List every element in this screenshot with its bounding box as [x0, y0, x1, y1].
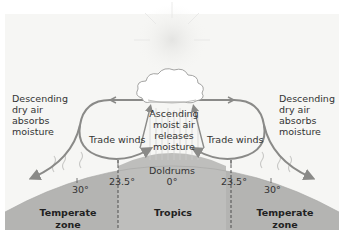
left-descending-line-4: moisture	[12, 126, 68, 137]
zone-temperate-right-line-2: zone	[255, 219, 315, 231]
right-descending-label: Descending dry air absorbs moisture	[279, 93, 335, 137]
latitude-right-23-5: 23.5°	[221, 176, 247, 187]
trade-winds-right-label: Trade winds	[207, 134, 263, 145]
latitude-right-30: 30°	[264, 184, 281, 195]
ascending-line-3: releases	[147, 130, 201, 141]
hadley-cell-diagram: Descending dry air absorbs moisture Desc…	[0, 0, 344, 241]
latitude-left-30: 30°	[72, 184, 89, 195]
left-descending-label: Descending dry air absorbs moisture	[12, 93, 68, 137]
left-descending-line-1: Descending	[12, 93, 68, 104]
left-descending-line-3: absorbs	[12, 115, 68, 126]
zone-temperate-left-line-2: zone	[38, 219, 98, 231]
right-descending-line-3: absorbs	[279, 115, 335, 126]
right-descending-line-4: moisture	[279, 126, 335, 137]
trade-winds-left-label: Trade winds	[89, 134, 145, 145]
doldrums-text: Doldrums	[146, 165, 198, 176]
ascending-line-2: moist air	[147, 119, 201, 130]
latitude-left-23-5: 23.5°	[109, 176, 135, 187]
right-descending-line-2: dry air	[279, 104, 335, 115]
doldrums-degree: 0°	[146, 176, 198, 187]
right-descending-line-1: Descending	[279, 93, 335, 104]
doldrums-label: Doldrums 0°	[146, 165, 198, 187]
cloud-icon	[137, 69, 204, 103]
ascending-line-4: moisture	[147, 141, 201, 152]
ascending-line-1: Ascending	[147, 108, 201, 119]
left-descending-line-2: dry air	[12, 104, 68, 115]
zone-tropics: Tropics	[148, 207, 198, 219]
zone-temperate-left-line-1: Temperate	[38, 207, 98, 219]
sun-icon	[134, 2, 210, 76]
zone-temperate-left: Temperate zone	[38, 207, 98, 231]
ascending-label: Ascending moist air releases moisture	[147, 108, 201, 152]
zone-temperate-right: Temperate zone	[255, 207, 315, 231]
zone-temperate-right-line-1: Temperate	[255, 207, 315, 219]
